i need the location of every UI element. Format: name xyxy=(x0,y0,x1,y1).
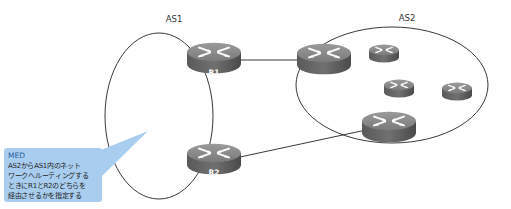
router-r1-label: R1 xyxy=(209,68,220,77)
as2-label: AS2 xyxy=(399,13,416,23)
router-as2-internal-3 xyxy=(442,83,472,101)
callout-line: ワークへルーティングする xyxy=(8,171,98,181)
router-as2-internal-2 xyxy=(384,80,414,98)
router-r2-label: R2 xyxy=(209,168,220,177)
callout-line: ときにR1とR2のどちらを xyxy=(8,181,98,191)
router-icon xyxy=(442,83,472,101)
router-as2-internal-1 xyxy=(369,45,399,63)
as1-label: AS1 xyxy=(166,14,183,24)
callout-line: 経由させるかを指定する xyxy=(8,191,98,201)
callout-title: MED xyxy=(8,151,98,161)
callout-pointer xyxy=(96,131,148,176)
callout-line: AS2からAS1内のネット xyxy=(8,161,98,171)
router-as2-border-top xyxy=(297,44,351,75)
router-icon xyxy=(362,112,416,143)
router-icon xyxy=(384,80,414,98)
router-as2-border-bottom xyxy=(362,112,416,143)
link-r2-as2 xyxy=(240,130,366,157)
med-callout: MED AS2からAS1内のネット ワークへルーティングする ときにR1とR2の… xyxy=(4,148,102,202)
router-icon xyxy=(369,45,399,63)
router-icon xyxy=(297,44,351,75)
